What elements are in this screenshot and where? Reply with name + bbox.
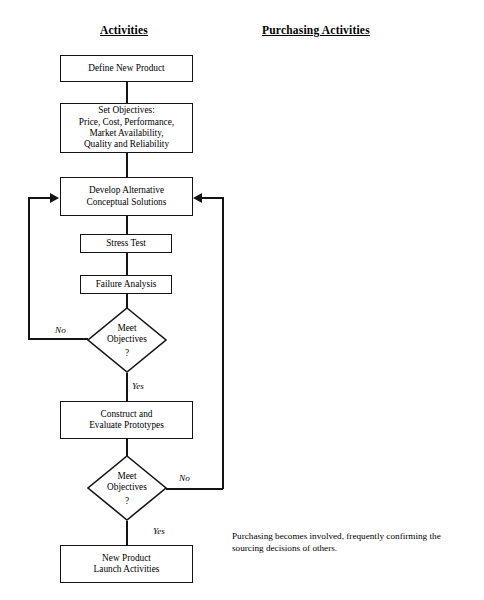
- loop-no-1-horizontal-segment: [28, 338, 88, 340]
- set-objectives-line-3: Market Availability,: [89, 128, 163, 138]
- develop-line-1: Develop Alternative: [89, 185, 164, 195]
- process-box-new-product-launch-activities[interactable]: New Product Launch Activities: [60, 545, 193, 583]
- connector-failure-analysis-to-decision-1: [126, 294, 128, 308]
- loop-no-2-return-segment: [202, 197, 223, 199]
- process-box-define-new-product-label: Define New Product: [85, 63, 167, 74]
- process-box-stress-test-label: Stress Test: [103, 238, 149, 249]
- decision-diamond-meet-objectives-2[interactable]: Meet Objectives ?: [87, 455, 167, 521]
- process-box-define-new-product[interactable]: Define New Product: [60, 55, 193, 82]
- connector-define-to-objectives: [126, 82, 128, 103]
- construct-line-1: Construct and: [101, 409, 153, 419]
- branch-label-no-1: No: [54, 325, 67, 335]
- column-header-purchasing-activities: Purchasing Activities: [262, 24, 370, 36]
- decision-diamond-meet-objectives-1[interactable]: Meet Objectives ?: [87, 307, 167, 373]
- connector-objectives-to-develop: [126, 153, 128, 177]
- connector-stress-test-to-failure-analysis: [126, 253, 128, 275]
- set-objectives-line-2: Price, Cost, Performance,: [79, 117, 174, 127]
- process-box-construct-and-evaluate-prototypes[interactable]: Construct and Evaluate Prototypes: [60, 401, 193, 439]
- connector-decision-1-yes-to-construct: [126, 373, 128, 401]
- decision-1-line-1: Meet: [117, 323, 136, 333]
- process-box-launch-label: New Product Launch Activities: [91, 553, 163, 576]
- branch-label-no-2: No: [178, 473, 191, 483]
- process-box-stress-test[interactable]: Stress Test: [80, 234, 172, 253]
- decision-diamond-1-label: Meet Objectives: [87, 323, 167, 344]
- decision-diamond-2-question-mark: ?: [87, 496, 167, 507]
- develop-line-2: Conceptual Solutions: [87, 197, 167, 207]
- process-box-set-objectives[interactable]: Set Objectives: Price, Cost, Performance…: [60, 103, 193, 153]
- process-box-develop-label: Develop Alternative Conceptual Solutions: [84, 185, 170, 208]
- decision-2-line-1: Meet: [117, 471, 136, 481]
- branch-label-yes-2: Yes: [152, 526, 166, 536]
- loop-no-2-vertical-segment: [222, 197, 224, 489]
- set-objectives-line-4: Quality and Reliability: [84, 139, 169, 149]
- purchasing-note-text: Purchasing becomes involved, frequently …: [232, 531, 472, 554]
- process-box-failure-analysis[interactable]: Failure Analysis: [80, 275, 172, 294]
- decision-2-line-2: Objectives: [107, 482, 147, 492]
- connector-construct-to-decision-2: [126, 439, 128, 456]
- process-box-develop-alternative-conceptual-solutions[interactable]: Develop Alternative Conceptual Solutions: [60, 177, 193, 216]
- launch-line-2: Launch Activities: [94, 564, 160, 574]
- loop-no-2-arrowhead: [193, 193, 202, 203]
- column-header-activities: Activities: [100, 24, 148, 36]
- loop-no-1-arrowhead: [50, 193, 59, 203]
- process-box-failure-analysis-label: Failure Analysis: [93, 279, 160, 290]
- launch-line-1: New Product: [102, 553, 151, 563]
- loop-no-1-vertical-segment: [28, 197, 30, 339]
- connector-decision-2-yes-to-launch: [126, 521, 128, 545]
- decision-diamond-2-label: Meet Objectives: [87, 471, 167, 492]
- flowchart-canvas: Activities Purchasing Activities Define …: [0, 0, 484, 600]
- process-box-set-objectives-label: Set Objectives: Price, Cost, Performance…: [76, 105, 177, 151]
- loop-no-1-return-segment: [28, 197, 51, 199]
- decision-diamond-1-question-mark: ?: [87, 348, 167, 359]
- loop-no-2-horizontal-segment: [166, 488, 223, 490]
- process-box-construct-label: Construct and Evaluate Prototypes: [86, 409, 167, 432]
- branch-label-yes-1: Yes: [131, 381, 145, 391]
- construct-line-2: Evaluate Prototypes: [89, 420, 164, 430]
- connector-develop-to-stress-test: [126, 216, 128, 234]
- set-objectives-line-1: Set Objectives:: [98, 105, 155, 115]
- decision-1-line-2: Objectives: [107, 334, 147, 344]
